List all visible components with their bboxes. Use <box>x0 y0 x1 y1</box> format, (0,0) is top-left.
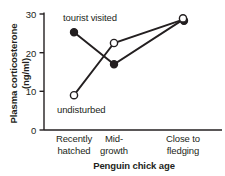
x-axis-category-mid-growth-line1: Mid- <box>82 133 146 145</box>
data-point-undisturbed-close-to-fledging <box>179 15 186 22</box>
x-axis-title: Penguin chick age <box>48 160 220 171</box>
series-annotation-undisturbed: undisturbed <box>57 104 106 115</box>
x-axis-category-mid-growth: Mid- growth <box>82 133 146 156</box>
data-point-tourist-visited-mid-growth <box>110 61 117 68</box>
x-axis-category-close-to-fledging-line2: fledging <box>151 145 215 157</box>
chart-container: Plasma corticosterone (ng/ml) 30 20 10 0… <box>0 0 225 176</box>
series-annotation-tourist-visited: tourist visited <box>63 12 117 23</box>
x-axis-category-mid-growth-line2: growth <box>82 145 146 157</box>
x-axis-category-close-to-fledging: Close to fledging <box>151 133 215 156</box>
series-line-tourist-visited <box>74 20 183 65</box>
data-point-tourist-visited-recently-hatched <box>70 29 77 36</box>
data-point-undisturbed-mid-growth <box>110 39 117 46</box>
x-axis-category-close-to-fledging-line1: Close to <box>151 133 215 145</box>
data-point-undisturbed-recently-hatched <box>70 92 77 99</box>
